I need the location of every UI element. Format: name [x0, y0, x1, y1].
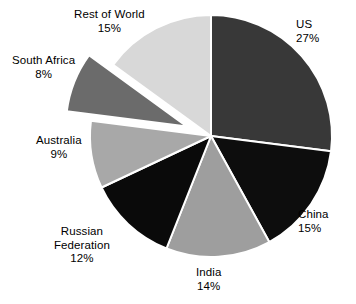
slice-label-rest-of-world: Rest of World 15% — [74, 8, 145, 35]
slice-label-china-value: 15% — [298, 222, 329, 236]
slice-label-south-africa-name: South Africa — [12, 54, 75, 66]
slice-label-rest-of-world-name: Rest of World — [74, 8, 145, 20]
slice-label-rest-of-world-value: 15% — [74, 22, 145, 36]
slice-label-us-value: 27% — [296, 32, 319, 46]
slice-label-australia: Australia 9% — [36, 134, 82, 161]
slice-label-china: China 15% — [298, 208, 329, 235]
slice-label-india-name: India — [196, 266, 221, 278]
slice-label-china-name: China — [298, 208, 329, 220]
slice-label-india: India 14% — [196, 266, 221, 293]
slice-label-russian-federation: Russian Federation 12% — [54, 225, 110, 266]
slice-label-south-africa-value: 8% — [12, 68, 75, 82]
slice-label-south-africa: South Africa 8% — [12, 54, 75, 81]
slice-label-us: US 27% — [296, 18, 319, 45]
slice-label-india-value: 14% — [196, 280, 221, 294]
slice-label-australia-name: Australia — [36, 134, 82, 146]
slice-label-us-name: US — [296, 18, 312, 30]
slice-label-australia-value: 9% — [36, 148, 82, 162]
slice-label-russian-federation-name2: Federation — [54, 239, 110, 253]
pie-slices-group — [67, 15, 332, 257]
slice-label-russian-federation-value: 12% — [54, 252, 110, 266]
slice-label-russian-federation-name: Russian — [61, 225, 103, 237]
pie-chart: US 27% China 15% India 14% Russian Feder… — [0, 0, 356, 304]
